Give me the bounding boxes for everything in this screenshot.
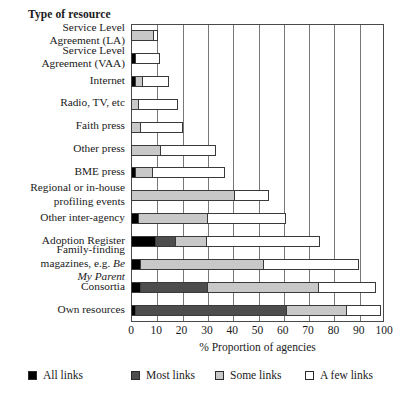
chart-row: Other inter-agency	[0, 207, 404, 230]
stacked-bar[interactable]	[131, 213, 285, 224]
bar-segment-most	[155, 236, 175, 247]
bar-segment-some	[135, 167, 153, 178]
bar-segment-all	[131, 236, 156, 247]
row-label: Internet	[0, 74, 125, 88]
chart-legend: All linksMost linksSome linksA few links	[0, 369, 404, 389]
stacked-bar[interactable]	[131, 236, 319, 247]
bar-segment-some	[207, 282, 318, 293]
x-tick-label: 50	[252, 324, 264, 336]
bar-segment-some	[131, 145, 161, 156]
bar-segment-few	[140, 122, 183, 133]
x-tick-label: 80	[328, 324, 340, 336]
chart-row: Regional or in-houseprofiling events	[0, 184, 404, 207]
stacked-bar[interactable]	[131, 167, 224, 178]
legend-item[interactable]: Most links	[131, 369, 195, 381]
chart-row: Radio, TV, etc	[0, 93, 404, 116]
stacked-bar[interactable]	[131, 190, 268, 201]
row-label: Service LevelAgreement (VAA)	[0, 44, 125, 71]
stacked-bar[interactable]	[131, 305, 380, 316]
bar-segment-few	[138, 99, 178, 110]
stacked-bar[interactable]	[131, 145, 215, 156]
bar-segment-few	[234, 190, 269, 201]
x-tick-label: 30	[201, 324, 213, 336]
legend-label: Some links	[230, 369, 281, 381]
bar-segment-some	[131, 190, 235, 201]
row-label: Own resources	[0, 303, 125, 317]
legend-item[interactable]: Some links	[215, 369, 281, 381]
stacked-bar[interactable]	[131, 99, 177, 110]
row-label: Regional or in-houseprofiling events	[0, 181, 125, 208]
row-label: Other press	[0, 142, 125, 156]
legend-swatch-some	[215, 371, 224, 380]
legend-label: All links	[43, 369, 83, 381]
row-label: Consortia	[0, 280, 125, 294]
stacked-bar-chart: Type of resource Service LevelAgreement …	[0, 0, 404, 395]
chart-row: Faith press	[0, 116, 404, 139]
row-label: Radio, TV, etc	[0, 96, 125, 110]
chart-row: Internet	[0, 70, 404, 93]
legend-swatch-most	[131, 371, 140, 380]
bar-segment-some	[140, 259, 264, 270]
chart-row: Service LevelAgreement (VAA)	[0, 47, 404, 70]
stacked-bar[interactable]	[131, 30, 157, 41]
legend-item[interactable]: A few links	[305, 369, 373, 381]
stacked-bar[interactable]	[131, 76, 168, 87]
row-label: BME press	[0, 165, 125, 179]
x-tick-label: 60	[277, 324, 289, 336]
bar-segment-some	[175, 236, 208, 247]
bar-rows: Service LevelAgreement (LA)Service Level…	[0, 24, 404, 322]
x-tick-label: 90	[353, 324, 365, 336]
chart-row: Consortia	[0, 276, 404, 299]
stacked-bar[interactable]	[131, 282, 375, 293]
x-tick-label: 100	[375, 324, 392, 336]
legend-item[interactable]: All links	[28, 369, 83, 381]
chart-row: Family-findingmagazines, e.g. BeMy Paren…	[0, 253, 404, 276]
x-tick-label: 70	[302, 324, 314, 336]
y-axis-title: Type of resource	[28, 8, 111, 20]
legend-swatch-all	[28, 371, 37, 380]
bar-segment-few	[153, 30, 158, 41]
bar-segment-some	[286, 305, 347, 316]
bar-segment-most	[135, 305, 287, 316]
chart-row: Own resources	[0, 299, 404, 322]
bar-segment-most	[140, 282, 208, 293]
chart-row: Other press	[0, 139, 404, 162]
legend-swatch-few	[305, 371, 314, 380]
bar-segment-few	[152, 167, 225, 178]
legend-label: A few links	[320, 369, 373, 381]
x-tick-label: 0	[128, 324, 134, 336]
x-axis-ticks: 0102030405060708090100	[0, 324, 404, 340]
row-label: Other inter-agency	[0, 211, 125, 225]
stacked-bar[interactable]	[131, 122, 182, 133]
x-tick-label: 20	[176, 324, 188, 336]
bar-segment-some	[131, 30, 154, 41]
bar-segment-few	[346, 305, 381, 316]
bar-segment-few	[263, 259, 359, 270]
bar-segment-few	[207, 213, 285, 224]
row-label: Faith press	[0, 119, 125, 133]
bar-segment-few	[135, 53, 160, 64]
bar-segment-some	[138, 213, 209, 224]
legend-label: Most links	[146, 369, 195, 381]
bar-segment-few	[318, 282, 376, 293]
bar-segment-few	[160, 145, 216, 156]
x-tick-label: 10	[151, 324, 163, 336]
stacked-bar[interactable]	[131, 259, 358, 270]
stacked-bar[interactable]	[131, 53, 159, 64]
bar-segment-few	[206, 236, 320, 247]
x-tick-label: 40	[226, 324, 238, 336]
x-axis-title: % Proportion of agencies	[131, 341, 384, 353]
bar-segment-few	[142, 76, 170, 87]
